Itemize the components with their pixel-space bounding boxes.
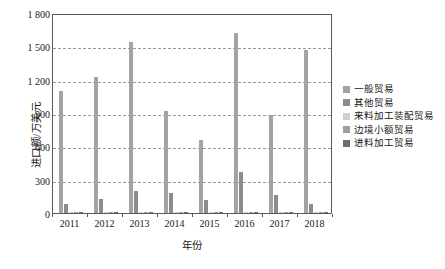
bar — [219, 212, 223, 213]
legend-swatch-icon — [343, 140, 350, 147]
x-tick-label: 2012 — [95, 218, 115, 229]
bar — [244, 212, 248, 213]
bar — [249, 212, 253, 213]
bar — [99, 199, 103, 213]
bar — [94, 77, 98, 213]
bar — [64, 204, 68, 213]
year-bar-group — [199, 15, 224, 213]
bar — [289, 212, 293, 213]
y-tick-label: 0 — [45, 209, 50, 220]
y-tick-label: 1 800 — [28, 9, 51, 20]
bar — [254, 212, 258, 213]
x-tick-label: 2017 — [270, 218, 290, 229]
bar — [134, 191, 138, 213]
x-tick-mark — [87, 214, 88, 217]
bar — [314, 212, 318, 213]
x-tick-label: 2014 — [165, 218, 185, 229]
legend-swatch-icon — [343, 126, 350, 133]
bars-layer — [53, 15, 331, 213]
legend-label: 边境小额贸易 — [354, 125, 414, 135]
bar — [319, 212, 323, 213]
x-tick-label: 2011 — [60, 218, 80, 229]
bar — [304, 50, 308, 213]
year-bar-group — [129, 15, 154, 213]
legend-label: 来料加工装配贸易 — [354, 111, 434, 121]
legend-swatch-icon — [343, 99, 350, 106]
bar — [214, 212, 218, 213]
bar — [104, 212, 108, 213]
y-tick-label: 300 — [35, 175, 50, 186]
x-axis-title: 年份 — [52, 237, 332, 252]
bar — [59, 91, 63, 213]
bar — [164, 111, 168, 213]
x-tick-mark — [297, 214, 298, 217]
bar — [209, 212, 213, 213]
bar — [184, 212, 188, 213]
x-tick-mark — [192, 214, 193, 217]
bar — [79, 212, 83, 213]
bar — [144, 212, 148, 213]
y-tick-label: 1 500 — [28, 42, 51, 53]
bar-chart: 进口额/万美元 03006009001 2001 5001 800 201120… — [0, 0, 445, 269]
plot-area — [52, 14, 332, 214]
y-tick-label: 1 200 — [28, 75, 51, 86]
bar — [204, 200, 208, 213]
legend-item[interactable]: 来料加工装配贸易 — [343, 111, 434, 121]
bar — [279, 212, 283, 213]
x-tick-mark — [157, 214, 158, 217]
year-bar-group — [269, 15, 294, 213]
bar — [269, 115, 273, 213]
x-tick-label: 2015 — [200, 218, 220, 229]
x-tick-mark — [122, 214, 123, 217]
x-axis-tick-labels: 20112012201320142015201620172018 — [52, 214, 332, 236]
bar — [274, 195, 278, 213]
year-bar-group — [304, 15, 329, 213]
legend-item[interactable]: 进料加工贸易 — [343, 138, 434, 148]
bar — [109, 212, 113, 213]
x-tick-label: 2016 — [235, 218, 255, 229]
bar — [169, 193, 173, 213]
x-tick-mark — [332, 214, 333, 217]
bar — [309, 204, 313, 213]
legend-swatch-icon — [343, 86, 350, 93]
bar — [174, 212, 178, 213]
bar — [69, 212, 73, 213]
bar — [324, 212, 328, 213]
chart-legend: 一般贸易其他贸易来料加工装配贸易边境小额贸易进料加工贸易 — [343, 84, 434, 148]
year-bar-group — [94, 15, 119, 213]
x-tick-mark — [52, 214, 53, 217]
legend-item[interactable]: 一般贸易 — [343, 84, 434, 94]
bar — [129, 42, 133, 213]
x-tick-label: 2018 — [305, 218, 325, 229]
legend-label: 进料加工贸易 — [354, 138, 414, 148]
legend-swatch-icon — [343, 113, 350, 120]
y-axis-tick-labels: 03006009001 2001 5001 800 — [14, 14, 50, 214]
bar — [239, 172, 243, 213]
bar — [179, 212, 183, 213]
x-tick-mark — [262, 214, 263, 217]
legend-label: 一般贸易 — [354, 84, 394, 94]
bar — [234, 33, 238, 213]
y-tick-label: 900 — [35, 109, 50, 120]
bar — [139, 212, 143, 213]
legend-label: 其他贸易 — [354, 98, 394, 108]
y-tick-label: 600 — [35, 142, 50, 153]
legend-item[interactable]: 其他贸易 — [343, 98, 434, 108]
year-bar-group — [164, 15, 189, 213]
bar — [149, 212, 153, 213]
year-bar-group — [234, 15, 259, 213]
x-tick-mark — [227, 214, 228, 217]
x-tick-label: 2013 — [130, 218, 150, 229]
bar — [199, 140, 203, 213]
legend-item[interactable]: 边境小额贸易 — [343, 125, 434, 135]
bar — [284, 212, 288, 213]
year-bar-group — [59, 15, 84, 213]
bar — [114, 212, 118, 213]
bar — [74, 212, 78, 213]
